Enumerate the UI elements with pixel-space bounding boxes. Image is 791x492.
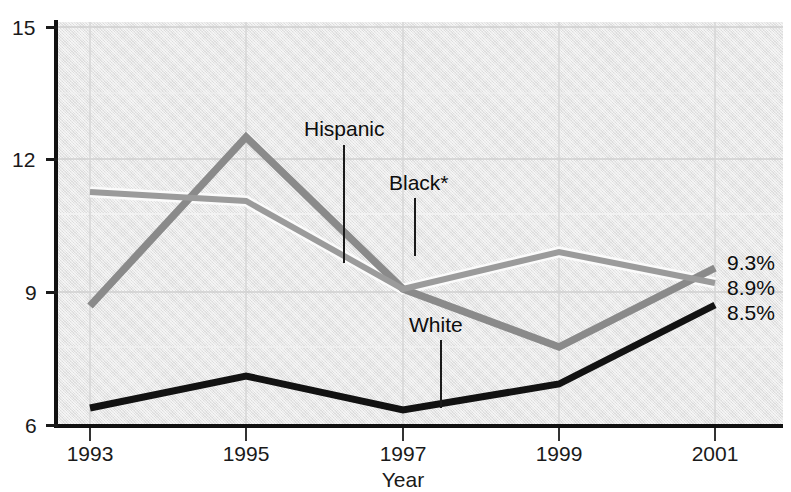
- series-label-black: Black*: [389, 171, 449, 195]
- end-value-label-black: 8.9%: [727, 276, 775, 300]
- y-axis: [54, 20, 58, 428]
- y-tick-label-12: 12: [12, 148, 35, 172]
- leader-line-white: [440, 340, 442, 408]
- series-label-hispanic: Hispanic: [304, 117, 385, 141]
- x-tick-mark-1997: [402, 428, 404, 441]
- y-tick-mark-12: [46, 158, 58, 161]
- x-tick-label-1993: 1993: [67, 442, 114, 466]
- horizontal-gridlines: [57, 27, 783, 292]
- x-tick-label-1995: 1995: [223, 442, 270, 466]
- x-axis: [54, 424, 783, 428]
- y-tick-label-15: 15: [12, 16, 35, 40]
- leader-line-black: [414, 198, 416, 256]
- end-value-label-white: 8.5%: [727, 301, 775, 325]
- y-tick-mark-6: [46, 424, 58, 427]
- x-tick-mark-1995: [245, 428, 247, 441]
- end-value-label-hispanic: 9.3%: [727, 251, 775, 275]
- y-tick-mark-15: [46, 26, 58, 29]
- series-label-white: White: [409, 313, 463, 337]
- x-tick-label-1999: 1999: [536, 442, 583, 466]
- line-chart: 15 12 9 6 1993 1995 1997 1999 2001 Year …: [0, 0, 791, 492]
- x-tick-label-2001: 2001: [692, 442, 739, 466]
- y-tick-mark-9: [46, 291, 58, 294]
- y-tick-label-9: 9: [25, 281, 37, 305]
- y-tick-label-6: 6: [25, 414, 37, 438]
- leader-line-hispanic: [343, 145, 345, 263]
- x-tick-mark-1993: [89, 428, 91, 441]
- chart-canvas: [0, 0, 791, 492]
- x-tick-mark-2001: [714, 428, 716, 441]
- x-axis-title: Year: [382, 468, 424, 492]
- x-tick-label-1997: 1997: [380, 442, 427, 466]
- vertical-gridlines: [90, 22, 715, 425]
- x-tick-mark-1999: [558, 428, 560, 441]
